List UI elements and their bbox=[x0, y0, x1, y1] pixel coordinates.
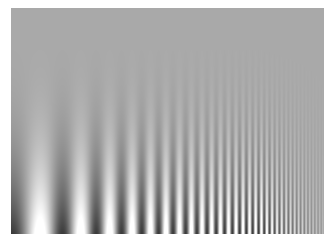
contrast-sensitivity-grating bbox=[11, 8, 324, 234]
